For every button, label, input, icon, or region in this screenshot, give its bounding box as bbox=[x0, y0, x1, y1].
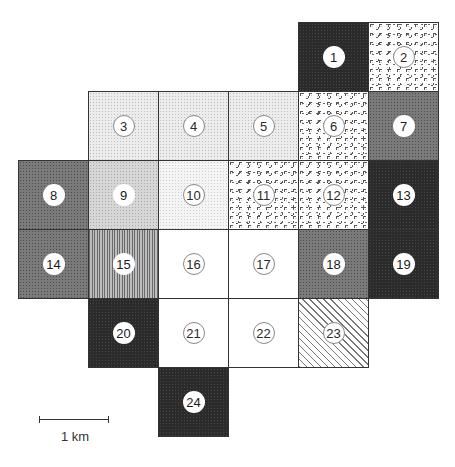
grid-cell-13: 13 bbox=[368, 160, 439, 230]
grid-cell-20: 20 bbox=[88, 298, 159, 368]
cell-number-label: 15 bbox=[113, 253, 135, 275]
grid-cell-23: 23 bbox=[298, 298, 369, 368]
cell-number-label: 18 bbox=[323, 253, 345, 275]
grid-cell-12: 12 bbox=[298, 160, 369, 230]
cell-number-label: 16 bbox=[183, 253, 205, 275]
grid-cell-18: 18 bbox=[298, 229, 369, 299]
cell-number-label: 23 bbox=[323, 322, 345, 344]
cell-number-label: 6 bbox=[323, 115, 345, 137]
grid-map: 123456789101112131415161718192021222324 bbox=[0, 0, 455, 467]
grid-cell-15: 15 bbox=[88, 229, 159, 299]
grid-cell-16: 16 bbox=[158, 229, 229, 299]
cell-number-label: 2 bbox=[393, 46, 415, 68]
cell-number-label: 3 bbox=[113, 115, 135, 137]
grid-cell-22: 22 bbox=[228, 298, 299, 368]
scale-bar-label: 1 km bbox=[40, 429, 110, 444]
cell-number-label: 14 bbox=[43, 253, 65, 275]
grid-cell-11: 11 bbox=[228, 160, 299, 230]
grid-cell-19: 19 bbox=[368, 229, 439, 299]
grid-cell-24: 24 bbox=[158, 367, 229, 437]
cell-number-label: 12 bbox=[323, 184, 345, 206]
cell-number-label: 21 bbox=[183, 322, 205, 344]
grid-cell-21: 21 bbox=[158, 298, 229, 368]
cell-number-label: 13 bbox=[393, 184, 415, 206]
cell-number-label: 17 bbox=[253, 253, 275, 275]
cell-number-label: 7 bbox=[393, 115, 415, 137]
cell-number-label: 24 bbox=[183, 391, 205, 413]
grid-cell-6: 6 bbox=[298, 91, 369, 161]
grid-cell-4: 4 bbox=[158, 91, 229, 161]
grid-cell-2: 2 bbox=[368, 22, 439, 92]
grid-cell-3: 3 bbox=[88, 91, 159, 161]
grid-cell-10: 10 bbox=[158, 160, 229, 230]
scale-bar-tick-left bbox=[39, 416, 40, 423]
scale-bar bbox=[39, 416, 109, 424]
grid-cell-1: 1 bbox=[298, 22, 369, 92]
grid-cell-5: 5 bbox=[228, 91, 299, 161]
cell-number-label: 4 bbox=[183, 115, 205, 137]
cell-number-label: 22 bbox=[253, 322, 275, 344]
cell-number-label: 10 bbox=[183, 184, 205, 206]
cell-number-label: 1 bbox=[323, 46, 345, 68]
cell-number-label: 5 bbox=[253, 115, 275, 137]
grid-cell-7: 7 bbox=[368, 91, 439, 161]
cell-number-label: 19 bbox=[393, 253, 415, 275]
cell-number-label: 11 bbox=[253, 184, 275, 206]
grid-cell-17: 17 bbox=[228, 229, 299, 299]
grid-cell-9: 9 bbox=[88, 160, 159, 230]
scale-bar-line bbox=[39, 419, 109, 420]
cell-number-label: 8 bbox=[43, 184, 65, 206]
cell-number-label: 9 bbox=[113, 184, 135, 206]
cell-number-label: 20 bbox=[113, 322, 135, 344]
grid-cell-14: 14 bbox=[18, 229, 89, 299]
grid-cell-8: 8 bbox=[18, 160, 89, 230]
scale-bar-tick-right bbox=[108, 416, 109, 423]
